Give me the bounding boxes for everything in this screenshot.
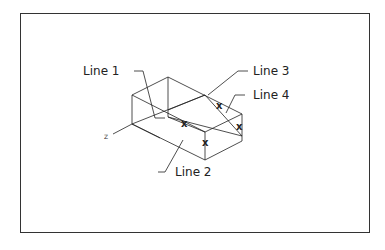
svg-text:x: x — [202, 137, 209, 148]
isometric-block-drawing: x x x x — [0, 0, 385, 250]
label-line-4: Line 4 — [253, 88, 289, 102]
label-line-2: Line 2 — [175, 165, 211, 179]
label-line-3: Line 3 — [253, 64, 289, 78]
svg-text:x: x — [236, 121, 243, 132]
axis-z-label: Z — [104, 133, 108, 140]
svg-text:x: x — [216, 100, 223, 111]
svg-text:x: x — [181, 118, 188, 129]
label-line-1: Line 1 — [83, 64, 119, 78]
